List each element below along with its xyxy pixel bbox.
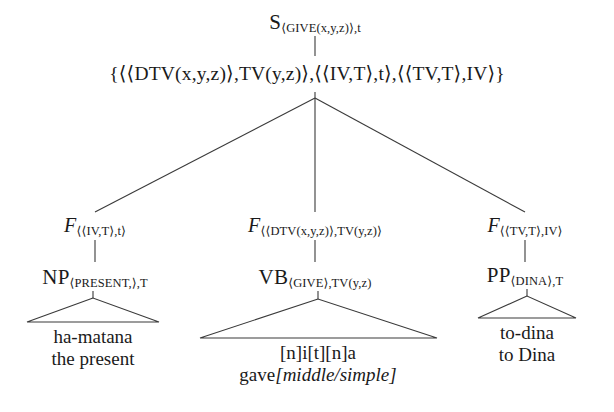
function-middle-subscript: ⟨⟨DTV(x,y,z)⟩,TV(y,z)⟩: [260, 224, 381, 238]
terminal-vb: [n]i[t][n]a gave[middle/simple]: [239, 342, 396, 387]
np-label: NP: [42, 265, 69, 289]
terminal-np-surface: ha-matana: [53, 326, 132, 347]
syntax-tree-figure: S⟨GIVE(x,y,z)⟩,t {⟨⟨DTV(x,y,z)⟩,TV(y,z)⟩…: [0, 0, 614, 412]
node-function-right: F⟨⟨TV,T⟩,IV⟩: [487, 215, 562, 235]
terminal-np: ha-matana the present: [52, 326, 135, 371]
node-function-left: F⟨⟨IV,T⟩,t⟩: [64, 215, 126, 235]
function-right-label: F: [487, 214, 499, 236]
pp-label: PP: [487, 263, 511, 287]
terminal-vb-gloss: gave[middle/simple]: [239, 364, 396, 386]
vb-subscript: ⟨GIVE⟩,TV(y,z): [288, 276, 371, 290]
terminal-vb-gloss-bracket: [middle/simple]: [275, 364, 396, 385]
terminal-pp-surface: to-dina: [500, 322, 554, 343]
triangle-pp: [478, 296, 576, 318]
triangle-vb: [200, 299, 437, 338]
np-subscript: ⟨PRESENT,⟩,T: [70, 276, 148, 290]
node-category-vb: VB⟨GIVE⟩,TV(y,z): [259, 267, 372, 288]
function-left-subscript: ⟨⟨IV,T⟩,t⟩: [76, 224, 125, 238]
node-root-s: S⟨GIVE(x,y,z)⟩,t: [269, 12, 360, 33]
function-right-subscript: ⟨⟨TV,T⟩,IV⟩: [500, 224, 563, 238]
root-subscript: ⟨GIVE(x,y,z)⟩,t: [281, 21, 361, 35]
feature-set-line: {⟨⟨DTV(x,y,z)⟩,TV(y,z)⟩,⟨⟨IV,T⟩,t⟩,⟨⟨TV,…: [109, 62, 505, 85]
terminal-np-gloss: the present: [52, 348, 135, 370]
triangle-np: [27, 298, 159, 322]
node-category-np: NP⟨PRESENT,⟩,T: [42, 267, 147, 288]
root-category-label: S: [269, 10, 281, 34]
node-function-middle: F⟨⟨DTV(x,y,z)⟩,TV(y,z)⟩: [248, 215, 382, 235]
terminal-vb-gloss-prefix: gave: [239, 364, 275, 385]
function-middle-label: F: [248, 214, 260, 236]
edge-apex-to-f-right: [315, 98, 525, 212]
pp-subscript: ⟨DINA⟩,T: [511, 274, 564, 288]
terminal-pp-gloss: to Dina: [499, 344, 555, 366]
terminal-pp: to-dina to Dina: [499, 322, 555, 367]
node-category-pp: PP⟨DINA⟩,T: [487, 265, 563, 286]
terminal-vb-surface: [n]i[t][n]a: [280, 342, 356, 363]
function-left-label: F: [64, 214, 76, 236]
vb-label: VB: [259, 265, 289, 289]
edge-apex-to-f-left: [95, 98, 315, 212]
